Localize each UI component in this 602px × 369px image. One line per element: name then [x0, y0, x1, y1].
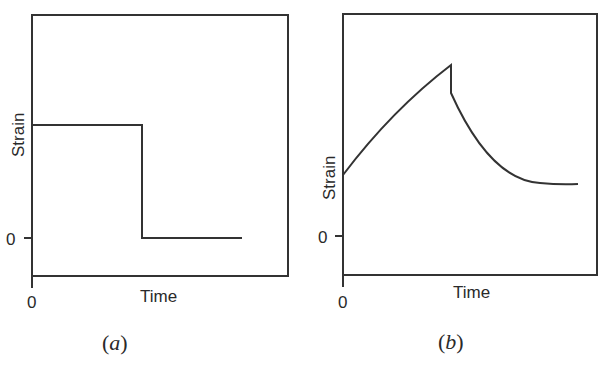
panel-a-frame [32, 15, 288, 276]
panel-b-frame [343, 14, 597, 275]
panel-b-y-zero: 0 [318, 228, 327, 247]
panel-b: Strain 0 0 Time (b) [318, 14, 597, 354]
panel-a-ylabel: Strain [9, 113, 28, 157]
panel-a-x-zero: 0 [27, 293, 36, 312]
panel-b-caption: (b) [438, 329, 464, 354]
panel-b-xlabel: Time [453, 283, 490, 302]
panel-a-xlabel: Time [140, 287, 177, 306]
panel-a-strain-curve [32, 125, 242, 238]
figure-canvas: Strain 0 0 Time (a) Strain 0 0 Time (b) [0, 0, 602, 369]
panel-b-strain-curve [343, 65, 578, 184]
panel-a: Strain 0 0 Time (a) [6, 15, 288, 355]
panel-b-x-zero: 0 [338, 293, 347, 312]
panel-b-ylabel: Strain [320, 156, 339, 200]
panel-a-y-zero: 0 [6, 230, 15, 249]
panel-a-caption: (a) [102, 330, 128, 355]
